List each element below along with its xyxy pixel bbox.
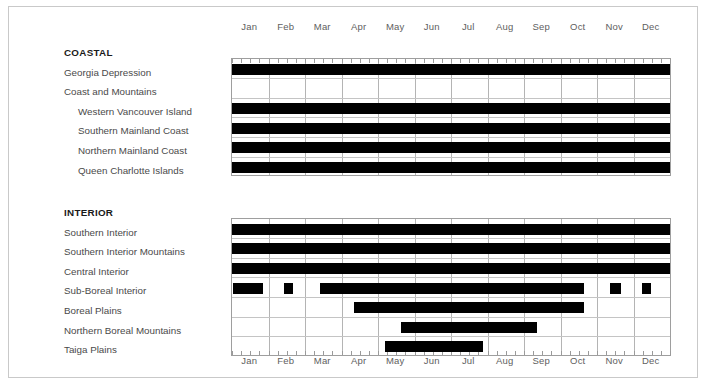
axis-tick — [643, 59, 644, 63]
chart-page: JanFebMarAprMayJunJulAugSepOctNovDec COA… — [0, 0, 706, 386]
month-label-mar: Mar — [304, 355, 341, 366]
timeline-row — [232, 162, 670, 173]
grid-hline — [232, 336, 670, 337]
axis-tick — [314, 59, 315, 63]
month-label-feb: Feb — [268, 355, 305, 366]
timeline-bar — [401, 322, 537, 333]
month-label-sep: Sep — [523, 355, 560, 366]
timeline-row — [232, 341, 670, 352]
month-label-apr: Apr — [341, 355, 378, 366]
axis-tick — [369, 59, 370, 63]
timeline-row — [232, 83, 670, 94]
axis-tick — [232, 59, 233, 63]
axis-tick — [588, 59, 589, 63]
month-label-aug: Aug — [487, 355, 524, 366]
timeline-bar — [233, 283, 263, 294]
axis-tick — [405, 59, 406, 63]
timeline-bar — [232, 162, 670, 173]
axis-tick — [442, 59, 443, 63]
axis-tick — [506, 59, 507, 63]
axis-tick — [497, 59, 498, 63]
grid-hline — [232, 157, 670, 158]
timeline-row — [232, 302, 670, 313]
axis-tick — [579, 59, 580, 63]
grid-hline — [232, 317, 670, 318]
axis-tick — [460, 59, 461, 63]
timeline-row — [232, 322, 670, 333]
grid-hline — [232, 258, 670, 259]
month-label-aug: Aug — [487, 21, 524, 32]
axis-tick — [424, 59, 425, 63]
month-label-dec: Dec — [633, 355, 670, 366]
timeline-row — [232, 263, 670, 274]
month-label-oct: Oct — [560, 21, 597, 32]
month-label-jan: Jan — [231, 21, 268, 32]
timeline-row — [232, 142, 670, 153]
axis-tick — [323, 59, 324, 63]
month-label-jul: Jul — [450, 355, 487, 366]
axis-tick — [551, 59, 552, 63]
axis-tick — [615, 59, 616, 63]
month-label-dec: Dec — [633, 21, 670, 32]
region-label-sub-boreal-interior: Sub-Boreal Interior — [64, 281, 146, 301]
axis-tick — [661, 59, 662, 63]
timeline-row — [232, 243, 670, 254]
grid-hline — [232, 117, 670, 118]
month-label-nov: Nov — [596, 355, 633, 366]
timeline-row — [232, 103, 670, 114]
axis-tick — [296, 59, 297, 63]
region-label-southern-interior: Southern Interior — [64, 223, 137, 243]
axis-tick — [396, 59, 397, 63]
month-label-apr: Apr — [341, 21, 378, 32]
grid-hline — [232, 137, 670, 138]
timeline-bar — [320, 283, 584, 294]
axis-tick — [533, 59, 534, 63]
axis-tick — [351, 59, 352, 63]
timeline-bar — [284, 283, 293, 294]
month-label-oct: Oct — [560, 355, 597, 366]
timeline-bar — [232, 263, 670, 274]
month-label-jan: Jan — [231, 355, 268, 366]
grid-hline — [232, 78, 670, 79]
axis-tick — [278, 59, 279, 63]
timeline-bar — [232, 243, 670, 254]
timeline-bar — [232, 103, 670, 114]
axis-tick — [259, 59, 260, 63]
axis-tick — [542, 59, 543, 63]
timeline-row — [232, 283, 670, 294]
month-label-mar: Mar — [304, 21, 341, 32]
axis-tick — [478, 59, 479, 63]
axis-tick — [287, 59, 288, 63]
group-heading-interior: INTERIOR — [64, 203, 113, 223]
timeline-bar — [232, 224, 670, 235]
region-label-boreal-plains: Boreal Plains — [64, 301, 122, 321]
axis-tick — [652, 59, 653, 63]
axis-tick — [606, 59, 607, 63]
timeline-bar — [232, 64, 670, 75]
region-label-southern-interior-mountains: Southern Interior Mountains — [64, 242, 185, 262]
axis-tick — [624, 59, 625, 63]
month-label-may: May — [377, 355, 414, 366]
timeline-row — [232, 224, 670, 235]
timeline-bar — [232, 123, 670, 134]
grid-hline — [232, 98, 670, 99]
month-label-jun: Jun — [414, 21, 451, 32]
timeline-row — [232, 64, 670, 75]
grid-hline — [232, 238, 670, 239]
region-label-northern-boreal-mountains: Northern Boreal Mountains — [64, 321, 181, 341]
axis-tick — [515, 59, 516, 63]
region-label-queen-charlotte-islands: Queen Charlotte Islands — [64, 161, 184, 181]
month-label-sep: Sep — [523, 21, 560, 32]
timeline-bar — [642, 283, 651, 294]
month-label-nov: Nov — [596, 21, 633, 32]
axis-tick — [670, 351, 671, 355]
group-heading-coastal: COASTAL — [64, 43, 113, 63]
region-label-southern-mainland-coast: Southern Mainland Coast — [64, 121, 189, 141]
region-label-central-interior: Central Interior — [64, 262, 129, 282]
region-label-northern-mainland-coast: Northern Mainland Coast — [64, 141, 187, 161]
grid-hline — [232, 277, 670, 278]
axis-tick — [469, 59, 470, 63]
axis-tick — [360, 59, 361, 63]
timeline-grid-coastal — [231, 58, 671, 177]
month-label-may: May — [377, 21, 414, 32]
